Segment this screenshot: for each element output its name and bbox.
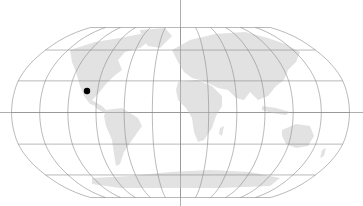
land-masses <box>70 28 326 188</box>
south-america-land <box>104 108 142 166</box>
madagascar-land <box>219 126 224 136</box>
location-marker[interactable] <box>84 88 90 94</box>
antarctica-land <box>92 170 280 188</box>
world-map[interactable] <box>0 0 363 206</box>
africa-land <box>176 80 222 142</box>
new-zealand-land <box>320 148 326 158</box>
greenland-land <box>140 28 172 48</box>
indonesia-land <box>262 106 290 115</box>
central-america-land <box>92 100 108 113</box>
